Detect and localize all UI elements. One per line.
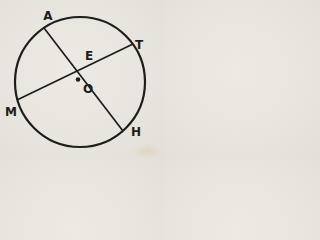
point-m-label: M xyxy=(5,105,17,119)
chord-a-h xyxy=(44,28,123,131)
point-h-label: H xyxy=(131,125,141,139)
circle-diagram: A T M H E O xyxy=(0,0,164,159)
point-a-label: A xyxy=(43,9,53,23)
circle-outline xyxy=(15,17,145,147)
point-e-label: E xyxy=(85,49,93,63)
point-t-label: T xyxy=(135,38,144,52)
chord-m-t xyxy=(17,44,133,100)
center-dot xyxy=(76,77,81,82)
point-o-label: O xyxy=(83,82,93,96)
geometry-figure: A T M H E O xyxy=(0,0,164,159)
